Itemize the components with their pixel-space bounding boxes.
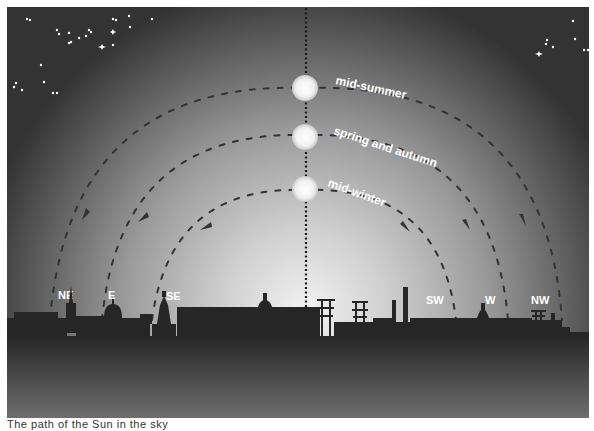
compass-w: W bbox=[485, 294, 496, 306]
ground bbox=[7, 336, 589, 418]
sun-mid-winter-icon bbox=[292, 176, 318, 202]
figure-caption: The path of the Sun in the sky bbox=[7, 418, 168, 430]
compass-nw: NW bbox=[531, 294, 550, 306]
compass-sw: SW bbox=[426, 294, 444, 306]
sun-spring-autumn-icon bbox=[292, 124, 318, 150]
sun-positions bbox=[292, 75, 318, 202]
compass-e: E bbox=[108, 289, 115, 301]
compass-se: SE bbox=[166, 290, 181, 302]
sun-mid-summer-icon bbox=[292, 75, 318, 101]
sun-path-diagram: mid-summer spring and autumn mid-winter … bbox=[7, 7, 589, 418]
